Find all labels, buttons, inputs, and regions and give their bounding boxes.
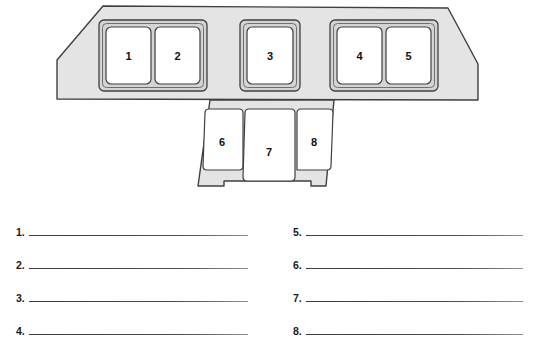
answer-row-7[interactable]: 7. [293, 271, 523, 304]
display-5[interactable]: 5 [386, 27, 431, 84]
display-2[interactable]: 2 [155, 27, 200, 84]
answer-number-4: 4. [16, 326, 25, 338]
answer-number-5: 5. [293, 227, 302, 239]
display-3[interactable]: 3 [247, 27, 293, 84]
callout-number-3: 3 [267, 50, 273, 62]
callout-number-2: 2 [174, 50, 180, 62]
display-4[interactable]: 4 [337, 27, 382, 84]
callout-number-5: 5 [405, 50, 411, 62]
answer-number-2: 2. [16, 260, 25, 272]
callout-number-4: 4 [356, 50, 363, 62]
answer-number-8: 8. [293, 326, 302, 338]
display-8[interactable]: 8 [297, 109, 333, 170]
answer-number-6: 6. [293, 260, 302, 272]
answer-lines-area: 1. 2. 3. 4. 5. 6. [0, 205, 548, 351]
callout-number-8: 8 [311, 136, 317, 148]
callout-number-6: 6 [219, 136, 225, 148]
answer-row-5[interactable]: 5. [293, 205, 523, 238]
worksheet-page: 1 2 3 4 [0, 0, 548, 351]
answer-column-left: 1. 2. 3. 4. [16, 205, 248, 337]
answer-blank-8[interactable] [306, 334, 523, 335]
answer-row-4[interactable]: 4. [16, 304, 248, 337]
answer-column-right: 5. 6. 7. 8. [293, 205, 523, 337]
answer-blank-7[interactable] [306, 301, 523, 302]
answer-blank-1[interactable] [29, 235, 248, 236]
callout-number-1: 1 [125, 50, 131, 62]
answer-number-7: 7. [293, 293, 302, 305]
display-1[interactable]: 1 [106, 27, 151, 84]
answer-row-1[interactable]: 1. [16, 205, 248, 238]
answer-blank-4[interactable] [29, 334, 248, 335]
display-7[interactable]: 7 [243, 109, 295, 181]
answer-number-1: 1. [16, 227, 25, 239]
answer-blank-3[interactable] [29, 301, 248, 302]
display-6[interactable]: 6 [203, 109, 243, 170]
answer-number-3: 3. [16, 293, 25, 305]
answer-row-6[interactable]: 6. [293, 238, 523, 271]
answer-row-8[interactable]: 8. [293, 304, 523, 337]
answer-blank-2[interactable] [29, 268, 248, 269]
answer-blank-5[interactable] [306, 235, 523, 236]
answer-blank-6[interactable] [306, 268, 523, 269]
answer-row-2[interactable]: 2. [16, 238, 248, 271]
cockpit-instrument-panel-diagram: 1 2 3 4 [0, 0, 548, 205]
callout-number-7: 7 [266, 146, 272, 158]
answer-row-3[interactable]: 3. [16, 271, 248, 304]
